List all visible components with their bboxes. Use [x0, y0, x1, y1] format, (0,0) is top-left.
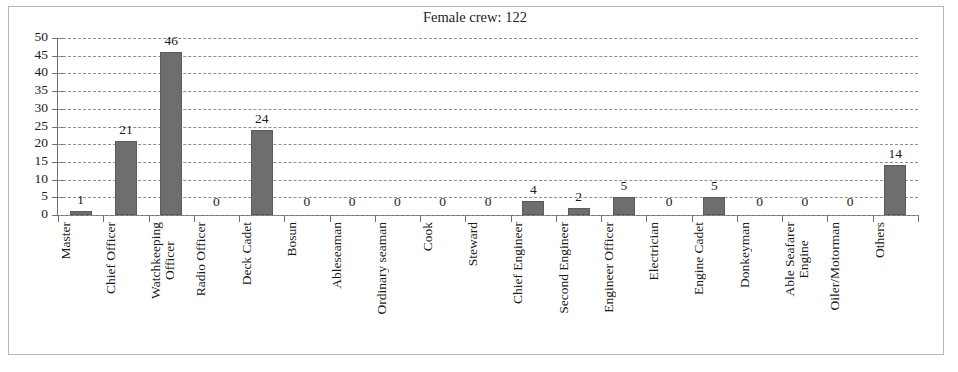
bar [613, 197, 635, 215]
bar-value-label: 0 [738, 194, 782, 210]
chart-title: Female crew: 122 [423, 9, 527, 26]
gridline [58, 91, 918, 92]
bar-value-label: 14 [873, 146, 917, 162]
bar [522, 201, 544, 215]
bar [703, 197, 725, 215]
x-axis-tick [239, 215, 240, 222]
x-axis-category-label: Second Engineer [557, 222, 601, 314]
y-axis-tick-label: 5 [8, 188, 48, 204]
y-axis-tick-label: 45 [8, 47, 48, 63]
y-axis-tick-label: 0 [8, 206, 48, 222]
bar [160, 52, 182, 215]
x-axis-tick [918, 215, 919, 222]
bar-value-label: 5 [692, 178, 736, 194]
bar-value-label: 4 [511, 182, 555, 198]
x-axis-category-label: Chief Engineer [511, 222, 555, 304]
x-axis-tick [873, 215, 874, 222]
x-axis-tick [103, 215, 104, 222]
bar-value-label: 21 [104, 122, 148, 138]
x-axis-category-label: Donkeyman [738, 222, 782, 288]
x-axis-tick [465, 215, 466, 222]
bar [70, 211, 92, 215]
bar-value-label: 0 [330, 194, 374, 210]
bar-value-label: 1 [59, 192, 103, 208]
y-axis-tick-label: 40 [8, 64, 48, 80]
x-axis-tick [194, 215, 195, 222]
x-axis-category-label: Engineer Officer [602, 222, 646, 313]
x-axis-category-label: Able Seafarer Engine [783, 222, 827, 297]
gridline [58, 180, 918, 181]
y-axis-tick-label: 20 [8, 135, 48, 151]
x-axis-category-label: Cook [421, 222, 465, 251]
x-axis-category-label: Chief Officer [104, 222, 148, 294]
gridline [58, 56, 918, 57]
gridline [58, 162, 918, 163]
x-axis-category-label: Deck Cadet [240, 222, 284, 285]
bar-value-label: 5 [602, 178, 646, 194]
bar-value-label: 0 [647, 194, 691, 210]
bar-value-label: 24 [240, 111, 284, 127]
y-axis-tick-label: 50 [8, 29, 48, 45]
bar-value-label: 0 [466, 194, 510, 210]
x-axis-tick [827, 215, 828, 222]
chart-figure: Female crew: 122 05101520253035404550 12… [0, 0, 958, 372]
gridline [58, 215, 918, 216]
x-axis-category-label: Master [59, 222, 103, 260]
y-axis-tick-label: 30 [8, 100, 48, 116]
plot-area: 12146024000004250500014 [58, 38, 918, 215]
x-axis-tick [692, 215, 693, 222]
bar [115, 141, 137, 215]
y-axis-tick-label: 10 [8, 171, 48, 187]
y-axis-labels: 05101520253035404550 [4, 38, 48, 216]
bar-value-label: 0 [828, 194, 872, 210]
x-axis-category-label: Watchkeeping Officer [149, 222, 193, 299]
bar-value-label: 46 [149, 33, 193, 49]
y-axis-tick-label: 25 [8, 118, 48, 134]
x-axis-tick [511, 215, 512, 222]
x-axis-category-label: Electrician [647, 222, 691, 280]
bar-value-label: 0 [375, 194, 419, 210]
x-axis-tick [420, 215, 421, 222]
bar-value-label: 0 [783, 194, 827, 210]
bar-value-label: 0 [194, 194, 238, 210]
bar [568, 208, 590, 215]
bar [884, 165, 906, 215]
bar-value-label: 0 [285, 194, 329, 210]
bar-value-label: 0 [421, 194, 465, 210]
bar-value-label: 2 [557, 189, 601, 205]
bar [251, 130, 273, 215]
gridline [58, 73, 918, 74]
x-axis-category-label: Bosun [285, 222, 329, 257]
x-axis-category-label: Oiler/Motorman [828, 222, 872, 310]
x-axis-category-label: Radio Officer [194, 222, 238, 296]
gridline [58, 127, 918, 128]
x-axis-category-label: Engine Cadet [692, 222, 736, 295]
gridline [58, 109, 918, 110]
x-axis-tick [646, 215, 647, 222]
x-axis-category-label: Ableseaman [330, 222, 374, 289]
x-axis-category-label: Ordinary seaman [375, 222, 419, 315]
y-axis-tick-label: 15 [8, 153, 48, 169]
x-axis-category-label: Steward [466, 222, 510, 266]
y-axis-tick-label: 35 [8, 82, 48, 98]
gridline [58, 144, 918, 145]
x-axis-category-label: Others [873, 222, 917, 258]
x-axis-tick [737, 215, 738, 222]
